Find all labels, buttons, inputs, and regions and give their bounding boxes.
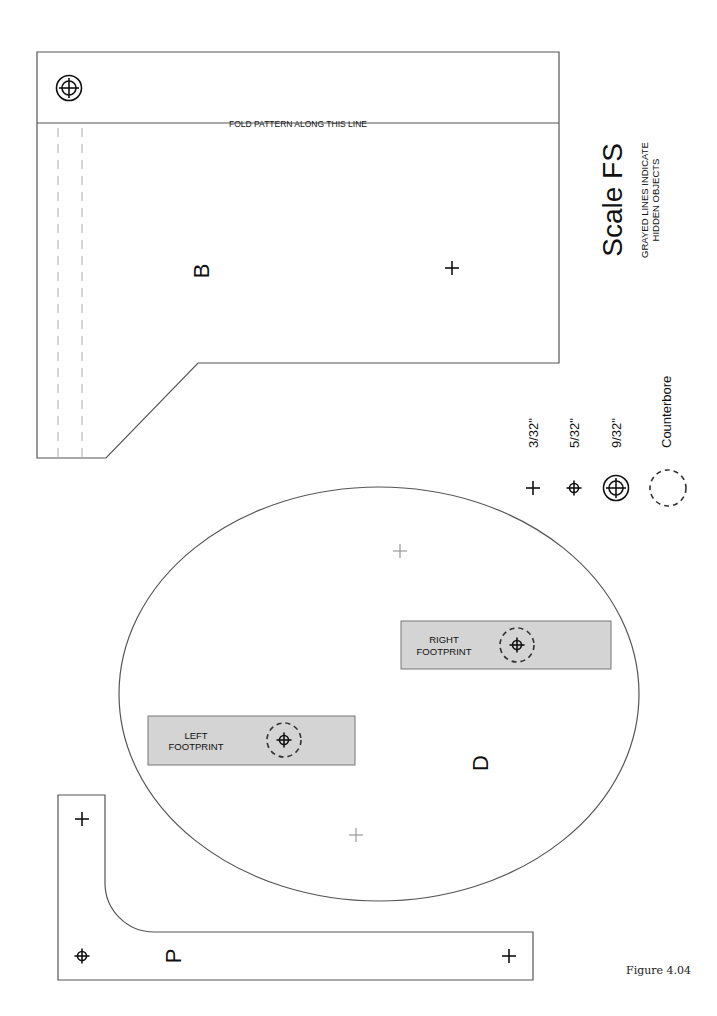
counterbore-icon [650, 470, 686, 506]
hidden-objects-note-line2: HIDDEN OBJECTS [650, 159, 661, 242]
hidden-plus-hole-icon [393, 544, 407, 558]
circled-crosshair-hole-icon [57, 76, 82, 101]
right-footprint-label-line2: FOOTPRINT [417, 646, 472, 657]
plus-hole-icon [445, 261, 459, 275]
scale-title: Scale FS [597, 143, 628, 257]
circled-crosshair-hole-icon [604, 476, 629, 501]
crosshair-hole-icon [75, 949, 90, 964]
legend-label-3-32: 3/32" [526, 418, 541, 448]
piece-b-label: B [189, 264, 214, 279]
plus-hole-icon [75, 812, 89, 826]
piece-b: FOLD PATTERN ALONG THIS LINE B [37, 52, 559, 458]
piece-p-label: P [161, 949, 186, 964]
right-footprint-area [401, 621, 611, 669]
pattern-sheet: FOLD PATTERN ALONG THIS LINE B Scale FS … [0, 0, 717, 1016]
piece-p: P [58, 795, 533, 980]
piece-b-outline [37, 52, 559, 458]
figure-caption: Figure 4.04 [626, 964, 691, 977]
legend-label-counterbore: Counterbore [659, 376, 674, 448]
crosshair-hole-icon [567, 481, 582, 496]
fold-line-label: FOLD PATTERN ALONG THIS LINE [229, 119, 367, 129]
piece-d-outline [119, 487, 639, 901]
left-footprint: LEFT FOOTPRINT [148, 716, 355, 765]
piece-d-label: D [468, 755, 493, 771]
right-footprint: RIGHT FOOTPRINT [401, 621, 611, 669]
hole-legend: 3/32" 5/32" 9/32" Counterbore [526, 376, 686, 506]
piece-p-outline [58, 795, 533, 980]
left-footprint-label-line1: LEFT [184, 730, 207, 741]
plus-hole-icon [526, 481, 540, 495]
legend-label-9-32: 9/32" [609, 418, 624, 448]
legend-label-5-32: 5/32" [567, 418, 582, 448]
piece-d: RIGHT FOOTPRINT LEFT FOOTPRINT D [119, 487, 639, 901]
plus-hole-icon [502, 949, 516, 963]
hidden-plus-hole-icon [349, 828, 363, 842]
right-footprint-label-line1: RIGHT [429, 634, 459, 645]
hidden-objects-note-line1: GRAYED LINES INDICATE [639, 142, 650, 258]
left-footprint-label-line2: FOOTPRINT [169, 741, 224, 752]
scale-block: Scale FS GRAYED LINES INDICATE HIDDEN OB… [597, 142, 661, 258]
